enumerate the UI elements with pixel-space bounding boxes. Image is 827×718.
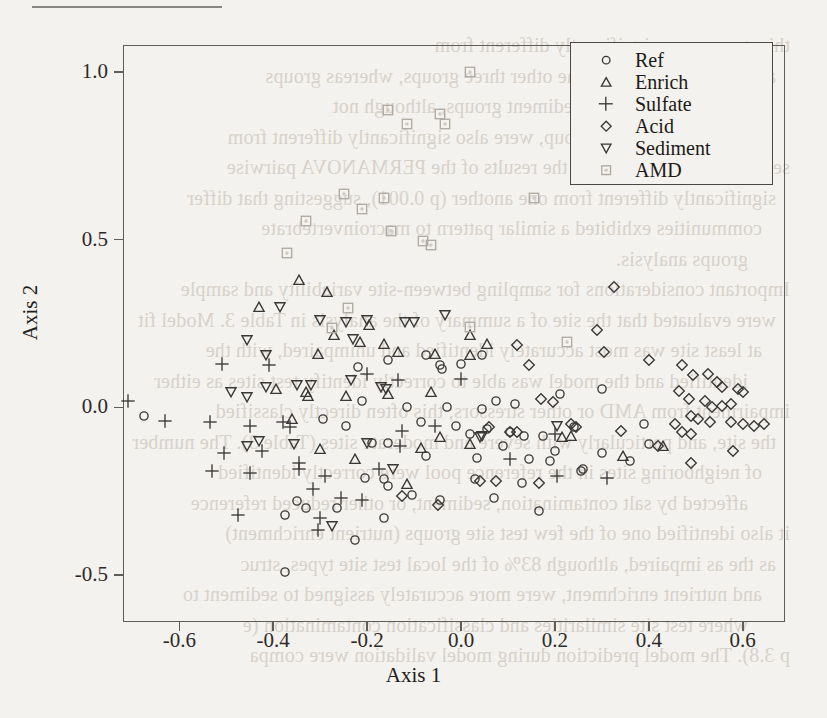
- data-point-ref: [340, 419, 353, 432]
- data-point-amd: [356, 203, 369, 216]
- data-point-ref: [382, 480, 395, 493]
- y-tick-label: -0.5: [54, 564, 108, 585]
- data-point-sulfate: [242, 465, 257, 480]
- legend-item-label: Sediment: [635, 138, 711, 158]
- data-point-sulfate: [214, 356, 229, 371]
- data-point-acid: [715, 381, 728, 394]
- data-point-sediment: [398, 315, 411, 328]
- data-point-amd: [342, 302, 355, 315]
- data-point-amd: [337, 188, 350, 201]
- legend-item-label: Enrich: [635, 72, 688, 92]
- data-point-sediment: [290, 379, 303, 392]
- data-point-sediment: [344, 374, 357, 387]
- data-point-acid: [396, 490, 409, 503]
- data-point-acid: [687, 369, 700, 382]
- data-point-enrich: [321, 285, 334, 298]
- y-tick-mark: [114, 239, 123, 241]
- data-point-acid: [591, 324, 604, 337]
- square-dot-icon: [593, 160, 619, 180]
- data-point-ref: [544, 454, 557, 467]
- legend-item-amd[interactable]: AMD: [571, 159, 772, 181]
- data-point-enrich: [424, 386, 437, 399]
- data-point-enrich: [377, 337, 390, 350]
- data-point-ref: [490, 394, 503, 407]
- data-point-sediment: [379, 382, 392, 395]
- data-point-sulfate: [503, 452, 518, 467]
- legend-box[interactable]: RefEnrichSulfateAcidSedimentAMD: [570, 42, 773, 185]
- data-point-sulfate: [360, 366, 375, 381]
- data-point-ref: [316, 413, 329, 426]
- data-point-acid: [532, 476, 545, 489]
- data-point-amd: [281, 246, 294, 259]
- data-point-sulfate: [216, 445, 231, 460]
- data-point-sulfate: [242, 418, 257, 433]
- legend-item-label: Ref: [635, 50, 664, 70]
- data-point-enrich: [349, 453, 362, 466]
- data-point-ref: [487, 491, 500, 504]
- data-point-ref: [450, 419, 463, 432]
- data-point-ref: [577, 463, 590, 476]
- data-point-acid: [431, 498, 444, 511]
- data-point-enrich: [480, 337, 493, 350]
- data-point-ref: [138, 409, 151, 422]
- data-point-acid: [685, 456, 698, 469]
- data-point-sediment: [304, 379, 317, 392]
- data-point-sulfate: [371, 462, 386, 477]
- data-point-sulfate: [395, 423, 410, 438]
- legend-item-label: Sulfate: [635, 94, 692, 114]
- data-point-amd: [401, 117, 414, 130]
- data-point-sulfate: [355, 492, 370, 507]
- data-point-sediment: [340, 315, 353, 328]
- data-point-amd: [560, 335, 573, 348]
- legend-item-acid[interactable]: Acid: [571, 115, 772, 137]
- data-point-acid: [757, 418, 770, 431]
- data-point-sulfate: [550, 469, 565, 484]
- y-tick-mark: [114, 71, 123, 73]
- legend-item-ref[interactable]: Ref: [571, 49, 772, 71]
- data-point-acid: [682, 392, 695, 405]
- data-point-acid: [490, 475, 503, 488]
- legend-item-sediment[interactable]: Sediment: [571, 137, 772, 159]
- y-tick-mark: [114, 574, 123, 576]
- data-point-acid: [725, 397, 738, 410]
- legend-item-label: AMD: [635, 160, 682, 180]
- data-point-sediment: [347, 332, 360, 345]
- data-point-acid: [570, 421, 583, 434]
- triangle-down-icon: [593, 138, 619, 158]
- circle-icon: [593, 50, 619, 70]
- data-point-sediment: [224, 386, 237, 399]
- data-point-sulfate: [202, 415, 217, 430]
- data-point-sediment: [361, 436, 374, 449]
- plus-icon: [593, 94, 619, 114]
- data-point-acid: [685, 428, 698, 441]
- data-point-ref: [278, 565, 291, 578]
- data-point-ref: [638, 418, 651, 431]
- data-point-sediment: [386, 463, 399, 476]
- data-point-amd: [438, 117, 451, 130]
- data-point-sediment: [241, 334, 254, 347]
- data-point-sulfate: [306, 482, 321, 497]
- data-point-acid: [614, 424, 627, 437]
- data-point-sediment: [260, 381, 273, 394]
- data-point-sulfate: [158, 413, 173, 428]
- x-tick-label: -0.4: [233, 630, 313, 651]
- legend-item-enrich[interactable]: Enrich: [571, 71, 772, 93]
- ordination-scatter-figure: 1.00.50.0-0.5-0.6-0.4-0.20.00.20.40.6 Ax…: [0, 0, 827, 718]
- legend-item-sulfate[interactable]: Sulfate: [571, 93, 772, 115]
- data-point-sediment: [253, 434, 266, 447]
- data-point-sulfate: [599, 470, 614, 485]
- data-point-ref: [377, 512, 390, 525]
- x-axis-title: Axis 1: [0, 663, 827, 688]
- data-point-amd: [464, 320, 477, 333]
- data-point-acid: [598, 345, 611, 358]
- data-point-acid: [607, 280, 620, 293]
- triangle-up-icon: [593, 72, 619, 92]
- x-tick-label: 0.4: [609, 630, 689, 651]
- data-point-amd: [300, 215, 313, 228]
- y-axis-title: Axis 2: [18, 243, 43, 383]
- data-point-sediment: [438, 309, 451, 322]
- data-point-sulfate: [292, 462, 307, 477]
- data-point-ref: [356, 394, 369, 407]
- data-point-ref: [358, 471, 371, 484]
- data-point-sediment: [274, 300, 287, 313]
